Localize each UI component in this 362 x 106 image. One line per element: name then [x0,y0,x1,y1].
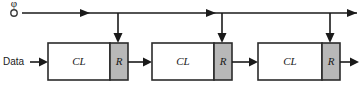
stage-link-arrow-1 [143,58,152,67]
pipeline-stage-2: CL R [152,43,232,80]
clock-label: φ [11,0,17,9]
data-input-arrow [39,58,48,67]
clock-bus-arrow-1 [80,9,90,17]
pipeline-diagram: φ Data CL [0,0,362,106]
clock-source-node: φ [11,0,17,16]
clock-drop-stage-1 [114,13,123,43]
clock-bus [22,9,357,17]
register-label-2: R [219,55,227,67]
register-label-1: R [115,55,123,67]
data-output-arrow [350,58,359,67]
data-input-port: Data [3,56,48,67]
clock-source-dot [11,10,17,16]
stage-link-2-3 [232,58,258,67]
clock-bus-arrow-2 [206,9,216,17]
clock-drop-stage-2 [218,13,227,43]
combinational-logic-label-3: CL [283,55,296,67]
stage-link-1-2 [128,58,152,67]
register-label-3: R [327,55,335,67]
stage-link-arrow-2 [249,58,258,67]
combinational-logic-label-1: CL [72,55,85,67]
combinational-logic-label-2: CL [176,55,189,67]
clock-drop-arrow-2 [218,33,227,43]
clock-drop-stage-3 [326,13,335,43]
clock-bus-arrow-3 [347,9,357,17]
pipeline-stage-1: CL R [48,43,128,80]
pipeline-stage-3: CL R [258,43,340,80]
data-output-port [340,58,359,67]
data-input-label: Data [3,56,25,67]
clock-drop-arrow-3 [326,33,335,43]
clock-drop-arrow-1 [114,33,123,43]
diagram-canvas: φ Data CL [0,0,362,106]
